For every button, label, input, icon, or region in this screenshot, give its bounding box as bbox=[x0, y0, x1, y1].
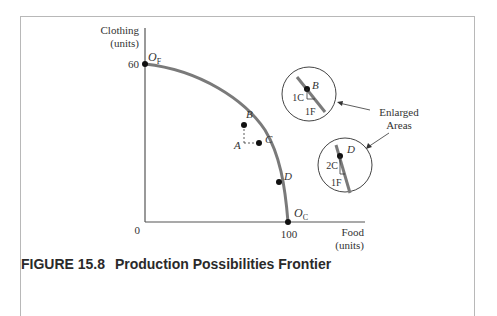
inset-d-vert-label: 2C bbox=[326, 160, 338, 171]
inset-d-horiz-label: 1F bbox=[331, 177, 342, 188]
enlarged-arrow-b bbox=[339, 103, 370, 110]
label-of: OF bbox=[148, 50, 162, 66]
enlarged-label-line2: Areas bbox=[386, 119, 412, 131]
inset-b-label: B bbox=[312, 79, 319, 91]
point-c bbox=[256, 140, 262, 146]
inset-d: D 2C 1F bbox=[318, 138, 372, 193]
x-axis-label-line1: Food bbox=[341, 226, 364, 238]
inset-b: B 1C 1F bbox=[282, 67, 336, 121]
x-tick-0: 0 bbox=[135, 224, 141, 236]
label-d: D bbox=[283, 170, 292, 182]
caption-number: FIGURE 15.8 bbox=[21, 256, 105, 272]
arrow-head-d-icon bbox=[366, 143, 372, 149]
enlarged-label-line1: Enlarged bbox=[379, 106, 419, 118]
label-oc: OC bbox=[294, 206, 308, 222]
x-axis-label-line2: (units) bbox=[335, 239, 364, 252]
point-b bbox=[241, 122, 247, 128]
label-b: B bbox=[246, 108, 253, 120]
y-axis-label-line1: Clothing bbox=[100, 24, 139, 36]
inset-b-horiz-label: 1F bbox=[305, 106, 316, 117]
point-oc bbox=[285, 219, 291, 225]
x-tick-100: 100 bbox=[281, 228, 298, 240]
caption-title: Production Possibilities Frontier bbox=[115, 256, 331, 272]
point-d bbox=[276, 179, 282, 185]
y-tick-60: 60 bbox=[128, 58, 140, 70]
arrow-head-b-icon bbox=[337, 101, 343, 106]
label-c: C bbox=[265, 133, 273, 145]
y-axis-label-line2: (units) bbox=[110, 37, 139, 50]
enlarged-arrow-d bbox=[368, 133, 389, 147]
inset-d-label: D bbox=[346, 143, 355, 155]
inset-b-vert-label: 1C bbox=[292, 92, 304, 103]
label-a: A bbox=[233, 139, 241, 151]
figure-caption: FIGURE 15.8 Production Possibilities Fro… bbox=[21, 256, 331, 272]
